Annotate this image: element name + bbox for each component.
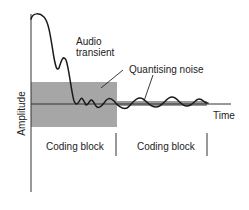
audio-transient-label-line1: Audio: [76, 36, 114, 47]
time-axis-label: Time: [213, 110, 235, 121]
coding-block-label-2: Coding block: [137, 141, 195, 152]
amplitude-axis-label: Amplitude: [16, 89, 27, 139]
diagram-canvas: [0, 0, 249, 210]
coding-block-label-1: Coding block: [46, 141, 104, 152]
audio-transient-label: Audio transient: [76, 36, 114, 58]
transient-quantisation-diagram: Audio transient Quantising noise Time Am…: [0, 0, 249, 210]
quantising-noise-label: Quantising noise: [129, 64, 204, 75]
audio-transient-label-line2: transient: [76, 47, 114, 58]
quantising-noise-pointer: [144, 75, 153, 101]
